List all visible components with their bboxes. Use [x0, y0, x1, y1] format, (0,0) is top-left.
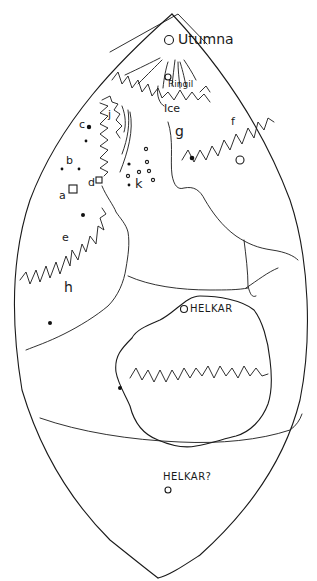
place-dot-k1 [127, 162, 130, 165]
place-ring-k6 [126, 174, 129, 177]
label-helkar-query: HELKAR? [163, 472, 211, 482]
label-j: j [108, 109, 111, 120]
southwestern-mountains-e [20, 208, 106, 284]
helkar-marker [181, 306, 188, 313]
label-helkar: HELKAR [190, 304, 233, 314]
world-map [0, 0, 317, 581]
place-dot-h [48, 321, 52, 325]
label-h: h [64, 280, 73, 294]
eastern-mountains-f [182, 118, 274, 162]
label-d: d [88, 177, 95, 188]
eastern-boundary-2 [246, 268, 278, 288]
east-marker [236, 156, 244, 164]
label-a: a [59, 190, 66, 201]
label-b: b [66, 155, 73, 166]
place-ring-k5 [151, 178, 154, 181]
label-k: k [135, 177, 143, 190]
helkar-mountains [130, 366, 268, 382]
place-dot-c2 [85, 140, 88, 143]
world-outline-left [15, 14, 172, 578]
place-dot-b [61, 168, 64, 171]
place-dot-helkar-west [118, 386, 122, 390]
place-ring-k4 [147, 169, 150, 172]
d-square-marker [96, 177, 102, 183]
label-ringil: Ringil [168, 80, 193, 89]
world-outline-right [158, 14, 307, 578]
label-utumna: Utumna [178, 32, 234, 46]
western-mountains-j2 [102, 96, 122, 138]
label-c: c [79, 119, 85, 130]
place-dot-b2 [78, 168, 81, 171]
label-e: e [62, 232, 69, 243]
label-g: g [175, 124, 184, 138]
a-square-marker [69, 185, 77, 193]
utumna-marker [165, 36, 174, 45]
place-dot-e [81, 213, 85, 217]
place-ring-k2 [145, 160, 148, 163]
place-dot-k2 [128, 184, 131, 187]
place-dot-c [87, 125, 91, 129]
inland-sea-west-coast [26, 186, 129, 350]
northern-mountains [112, 72, 210, 102]
inland-sea-north-coast [128, 276, 248, 290]
western-mountains-j [100, 103, 108, 176]
helkar-query-marker [165, 487, 171, 493]
place-dot-g [190, 156, 195, 161]
label-ice: Ice [164, 103, 180, 114]
southern-divide [40, 414, 302, 443]
place-ring-k3 [137, 170, 140, 173]
place-ring-k1 [144, 147, 147, 150]
j-ridge-lines [120, 106, 131, 172]
label-f: f [231, 116, 235, 127]
